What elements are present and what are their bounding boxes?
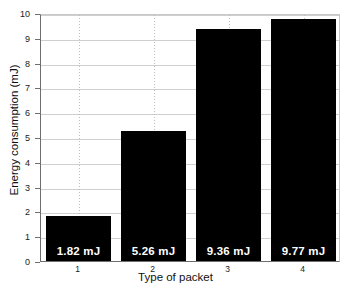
bar-value-label: 9.36 mJ (196, 245, 260, 257)
y-axis-tick-mark (35, 138, 40, 139)
y-axis-tick-mark (35, 262, 40, 263)
y-axis-title: Energy consumption (mJ) (8, 30, 20, 230)
y-axis-tick-label: 0 (0, 257, 30, 267)
y-axis-tick-mark (35, 39, 40, 40)
bar[interactable]: 1.82 mJ (46, 216, 110, 261)
bar-value-label: 1.82 mJ (46, 245, 110, 257)
y-axis-tick-mark (35, 14, 40, 15)
y-axis-tick-mark (35, 64, 40, 65)
plot-area: 1.82 mJ5.26 mJ9.36 mJ9.77 mJ (40, 14, 340, 262)
y-axis-tick-mark (35, 188, 40, 189)
bar[interactable]: 9.77 mJ (271, 19, 335, 261)
bar-value-label: 5.26 mJ (121, 245, 185, 257)
bar[interactable]: 5.26 mJ (121, 131, 185, 261)
y-axis-tick-mark (35, 163, 40, 164)
y-axis-tick-mark (35, 88, 40, 89)
y-axis-tick-mark (35, 113, 40, 114)
bar-value-label: 9.77 mJ (271, 245, 335, 257)
bar[interactable]: 9.36 mJ (196, 29, 260, 261)
y-axis-tick-label: 1 (0, 232, 30, 242)
y-axis-tick-label: 10 (0, 9, 30, 19)
y-axis-tick-mark (35, 212, 40, 213)
y-axis-tick-mark (35, 237, 40, 238)
bars-group: 1.82 mJ5.26 mJ9.36 mJ9.77 mJ (41, 15, 339, 261)
x-axis-title: Type of packet (0, 271, 351, 283)
bar-chart-figure: 1.82 mJ5.26 mJ9.36 mJ9.77 mJ 01234567891… (0, 0, 351, 288)
